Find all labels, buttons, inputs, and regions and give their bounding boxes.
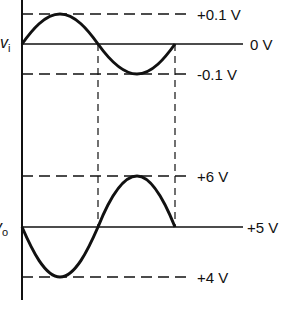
waveform-diagram: vi vo +0.1 V 0 V -0.1 V +6 V +5 V +4 V xyxy=(0,0,289,313)
input-signal-symbol: v xyxy=(0,34,8,51)
output-baseline-label: +5 V xyxy=(247,220,278,235)
input-signal-subscript: i xyxy=(8,42,10,54)
output-min-label: +4 V xyxy=(197,270,228,285)
output-signal-subscript: o xyxy=(2,226,8,238)
input-min-label: -0.1 V xyxy=(197,67,237,82)
input-max-label: +0.1 V xyxy=(197,7,241,22)
output-max-label: +6 V xyxy=(197,169,228,184)
waveform-graphic xyxy=(0,0,289,313)
input-baseline-label: 0 V xyxy=(250,37,273,52)
output-signal-label: vo xyxy=(0,219,8,238)
input-signal-label: vi xyxy=(0,35,10,54)
